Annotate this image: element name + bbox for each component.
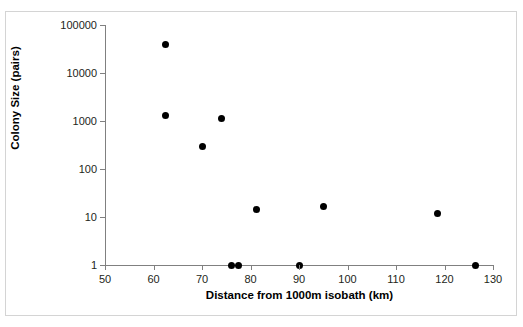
x-tick-label: 70 xyxy=(196,273,208,285)
x-tick-mark xyxy=(154,265,155,270)
data-point xyxy=(162,41,169,48)
x-tick-label: 120 xyxy=(435,273,453,285)
x-tick-label: 130 xyxy=(484,273,502,285)
x-tick-mark xyxy=(105,265,106,270)
x-tick-mark xyxy=(445,265,446,270)
plot-area: 110100100010000100000 xyxy=(105,25,493,265)
x-tick-label: 110 xyxy=(387,273,405,285)
y-tick-label: 10000 xyxy=(66,67,97,79)
data-point xyxy=(162,112,169,119)
x-tick-mark xyxy=(493,265,494,270)
data-point xyxy=(199,143,206,150)
x-tick-label: 90 xyxy=(293,273,305,285)
y-axis-title: Colony Size (pairs) xyxy=(9,13,21,183)
x-axis-title: Distance from 1000m isobath (km) xyxy=(105,289,494,301)
y-tick-label: 1 xyxy=(91,259,97,271)
data-point xyxy=(228,262,235,269)
data-point xyxy=(218,115,225,122)
y-tick-mark xyxy=(100,73,105,74)
x-tick-label: 60 xyxy=(147,273,159,285)
scatter-chart-figure: 110100100010000100000 506070809010011012… xyxy=(0,0,523,327)
data-point xyxy=(434,210,441,217)
y-tick-label: 10 xyxy=(85,211,97,223)
y-tick-label: 1000 xyxy=(73,115,97,127)
data-point xyxy=(235,262,242,269)
x-tick-mark xyxy=(396,265,397,270)
y-tick-mark xyxy=(100,217,105,218)
y-tick-mark xyxy=(100,121,105,122)
y-tick-mark xyxy=(100,25,105,26)
y-tick-mark xyxy=(100,169,105,170)
data-point xyxy=(320,203,327,210)
x-tick-mark xyxy=(348,265,349,270)
data-point xyxy=(253,206,260,213)
x-tick-mark xyxy=(299,265,300,270)
data-point xyxy=(472,262,479,269)
x-tick-mark xyxy=(202,265,203,270)
x-tick-label: 50 xyxy=(99,273,111,285)
y-tick-label: 100000 xyxy=(60,19,97,31)
x-tick-label: 100 xyxy=(338,273,356,285)
x-tick-mark xyxy=(251,265,252,270)
y-tick-label: 100 xyxy=(79,163,97,175)
x-tick-label: 80 xyxy=(244,273,256,285)
